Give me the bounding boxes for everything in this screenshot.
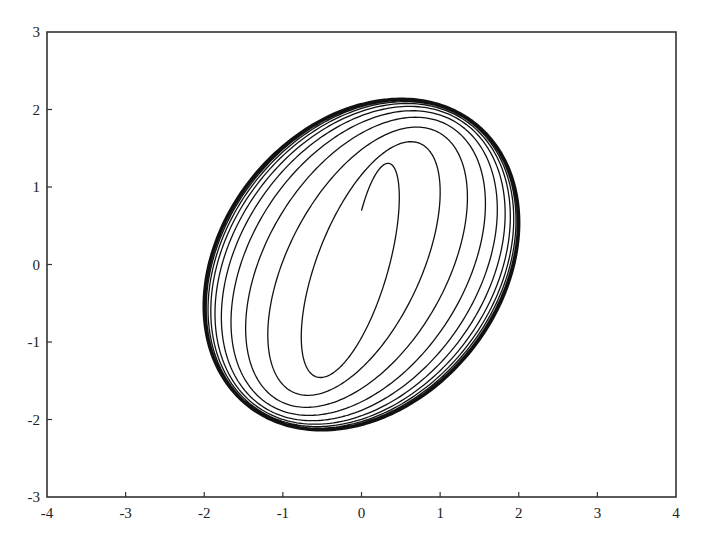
phase-portrait-chart: -4-3-2-101234 -3-2-10123	[0, 0, 704, 550]
x-tick-label: -4	[41, 505, 54, 521]
trajectory-series	[203, 98, 520, 431]
y-tick-label: 3	[33, 24, 41, 40]
trajectory-line	[203, 98, 520, 431]
x-tick-label: -2	[198, 505, 211, 521]
y-tick-label: 1	[33, 179, 41, 195]
x-tick-label: 1	[436, 505, 444, 521]
axes-frame	[47, 32, 676, 497]
x-tick-label: 2	[515, 505, 523, 521]
y-tick-label: -3	[28, 489, 41, 505]
x-tick-label: 4	[672, 505, 680, 521]
y-axis: -3-2-10123	[28, 24, 53, 505]
y-tick-label: 2	[33, 102, 41, 118]
y-tick-label: 0	[33, 257, 41, 273]
x-tick-label: -3	[119, 505, 132, 521]
y-tick-label: -1	[28, 334, 41, 350]
y-tick-label: -2	[28, 412, 41, 428]
x-tick-label: -1	[277, 505, 290, 521]
x-tick-label: 3	[594, 505, 602, 521]
x-tick-label: 0	[358, 505, 366, 521]
